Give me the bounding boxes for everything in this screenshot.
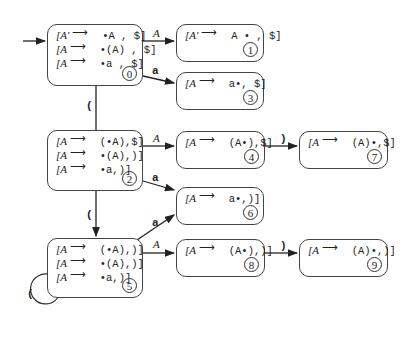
label-2-5: ( <box>86 209 93 221</box>
item: [A ⟶(A•),)] <box>185 244 273 258</box>
state-number: 6 <box>243 205 258 220</box>
item-lhs: [A <box>308 244 319 256</box>
state-3: [A ⟶a•, $] 3 <box>176 72 264 110</box>
item: [A ⟶(A•),$] <box>185 136 273 150</box>
item-rhs: •(A) , $] <box>100 44 157 56</box>
label-5-6: a <box>152 217 159 229</box>
item-rhs: (A•),)] <box>229 245 273 257</box>
item-lhs: [A <box>56 243 67 255</box>
production-arrow-icon: ⟶ <box>70 132 100 145</box>
item-lhs: [A′ <box>56 29 69 41</box>
item-rhs: (A)•,)] <box>352 245 396 257</box>
state-9: [A ⟶(A)•,)] 9 <box>299 239 388 277</box>
item: [A ⟶•a,)] <box>56 163 131 177</box>
production-arrow-icon: ⟶ <box>201 26 231 39</box>
item-lhs: [A <box>308 136 319 148</box>
item-lhs: [A <box>185 244 196 256</box>
item: [A ⟶(A)•,$] <box>308 136 396 150</box>
production-arrow-icon: ⟶ <box>70 268 100 281</box>
item: [A ⟶•a,)] <box>56 271 131 285</box>
item-rhs: •a , $] <box>100 58 144 70</box>
production-arrow-icon: ⟶ <box>70 146 100 159</box>
state-number: 9 <box>367 257 382 272</box>
state-number: 8 <box>244 257 259 272</box>
item-lhs: [A′ <box>185 29 198 41</box>
label-5-5: ( <box>27 288 34 300</box>
state-0: [A′ ⟶•A , $] [A ⟶•(A) , $] [A ⟶•a , $] 0 <box>47 24 143 86</box>
label-2-4: A <box>153 132 160 144</box>
production-arrow-icon: ⟶ <box>199 74 229 87</box>
item: [A ⟶(A)•,)] <box>308 244 396 258</box>
production-arrow-icon: ⟶ <box>70 54 100 67</box>
production-arrow-icon: ⟶ <box>199 189 229 202</box>
item-lhs: [A <box>185 192 196 204</box>
state-5: [A ⟶(•A),)] [A ⟶•(A),)] [A ⟶•a,)] 5 <box>47 238 143 298</box>
label-0-2: ( <box>86 100 93 112</box>
label-0-1: A <box>153 27 160 39</box>
production-arrow-icon: ⟶ <box>70 40 100 53</box>
item-lhs: [A <box>56 43 67 55</box>
state-number: 2 <box>122 171 137 186</box>
item-lhs: [A <box>56 135 67 147</box>
state-2: [A ⟶(•A),$] [A ⟶•(A),)] [A ⟶•a,)] 2 <box>47 130 143 191</box>
production-arrow-icon: ⟶ <box>199 133 229 146</box>
item: [A ⟶a•,)] <box>185 192 260 206</box>
item-lhs: [A <box>56 271 67 283</box>
production-arrow-icon: ⟶ <box>72 26 102 39</box>
state-number: 4 <box>244 149 259 164</box>
item-lhs: [A <box>56 257 67 269</box>
label-0-3: a <box>152 65 159 77</box>
state-number: 3 <box>243 90 258 105</box>
production-arrow-icon: ⟶ <box>322 241 352 254</box>
state-6: [A ⟶a•,)] 6 <box>176 187 264 225</box>
label-2-6: a <box>152 172 159 184</box>
item-rhs: (•A),)] <box>100 244 144 256</box>
state-number: 0 <box>122 66 137 81</box>
item-rhs: •A , $] <box>102 30 146 42</box>
state-7: [A ⟶(A)•,$] 7 <box>299 131 388 169</box>
item-lhs: [A <box>56 163 67 175</box>
item: [A′ ⟶A • , $] <box>185 29 282 43</box>
item-rhs: •(A),)] <box>100 258 144 270</box>
item-rhs: (A)•,$] <box>352 137 396 149</box>
label-4-7: ) <box>280 133 287 145</box>
item-lhs: [A <box>185 136 196 148</box>
edge-0-3 <box>143 76 174 83</box>
state-1: [A′ ⟶A • , $] 1 <box>176 24 264 62</box>
item-rhs: (•A),$] <box>100 136 144 148</box>
production-arrow-icon: ⟶ <box>322 133 352 146</box>
item: [A ⟶a•, $] <box>185 77 267 91</box>
state-4: [A ⟶(A•),$] 4 <box>176 131 265 169</box>
item-rhs: a•,)] <box>229 193 261 205</box>
production-arrow-icon: ⟶ <box>70 240 100 253</box>
production-arrow-icon: ⟶ <box>70 254 100 267</box>
state-number: 7 <box>367 149 382 164</box>
label-8-9: ) <box>280 240 287 252</box>
state-8: [A ⟶(A•),)] 8 <box>176 239 265 277</box>
item-lhs: [A <box>185 77 196 89</box>
item-lhs: [A <box>56 149 67 161</box>
item-rhs: •(A),)] <box>100 150 144 162</box>
state-number: 1 <box>243 42 258 57</box>
state-number: 5 <box>122 278 137 293</box>
production-arrow-icon: ⟶ <box>70 160 100 173</box>
item-rhs: a•, $] <box>229 78 267 90</box>
item-rhs: (A•),$] <box>229 137 273 149</box>
item-lhs: [A <box>56 57 67 69</box>
production-arrow-icon: ⟶ <box>199 241 229 254</box>
item-rhs: A • , $] <box>231 30 281 42</box>
label-5-8: A <box>153 238 160 250</box>
